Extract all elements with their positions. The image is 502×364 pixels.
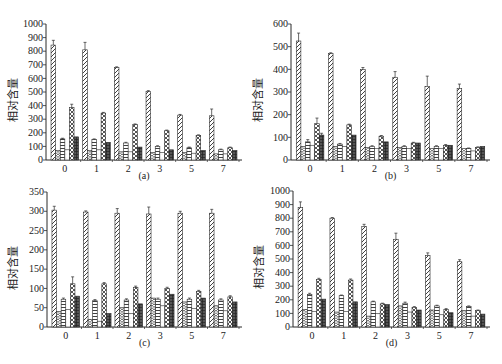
- bar-chevron: [462, 311, 467, 327]
- bar-horizontal-stripe: [371, 302, 376, 327]
- bar-group: [296, 33, 324, 160]
- bar-crosshatch: [228, 297, 233, 327]
- bar-crosshatch: [443, 145, 448, 160]
- bar-horizontal-stripe: [61, 299, 66, 327]
- x-tick-label: 0: [308, 163, 313, 174]
- bar-dark-grid: [138, 304, 143, 327]
- bar-crosshatch: [380, 304, 385, 327]
- bar-blank-dotted: [374, 149, 379, 160]
- bar-diagonal-hatch: [457, 262, 462, 327]
- bar-blank-dotted: [342, 146, 347, 160]
- bar-crosshatch: [411, 143, 416, 160]
- bar-dark-grid: [106, 314, 111, 328]
- x-tick-label: 5: [189, 330, 194, 341]
- bar-crosshatch: [412, 307, 417, 327]
- bar-chevron: [57, 312, 62, 327]
- bar-crosshatch: [476, 311, 481, 327]
- bar-group: [393, 72, 421, 160]
- bar-crosshatch: [133, 125, 138, 160]
- bar-dark-grid: [448, 145, 453, 160]
- bar-dark-grid: [232, 302, 237, 327]
- y-tick-label: 100: [29, 283, 44, 294]
- bar-blank-dotted: [344, 311, 349, 327]
- bar-crosshatch: [164, 131, 169, 160]
- bar-horizontal-stripe: [219, 300, 224, 327]
- bar-horizontal-stripe: [434, 146, 439, 160]
- panel-caption: (d): [386, 337, 398, 349]
- y-tick-label: 100: [275, 308, 290, 319]
- y-tick-label: 350: [29, 186, 44, 197]
- y-tick-label: 500: [273, 41, 288, 52]
- bar-diagonal-hatch: [298, 207, 303, 327]
- bar-diagonal-hatch: [83, 212, 88, 327]
- bar-diagonal-hatch: [328, 53, 333, 160]
- bar-blank-dotted: [192, 308, 197, 327]
- four-panel-bar-chart: 01002003004005006007008009001000相对含量0123…: [0, 0, 502, 364]
- y-tick-label: 800: [275, 212, 290, 223]
- bar-horizontal-stripe: [338, 144, 343, 160]
- y-tick-label: 0: [285, 321, 290, 332]
- bar-crosshatch: [165, 288, 170, 327]
- y-tick-label: 1000: [23, 18, 43, 29]
- bar-blank-dotted: [160, 306, 165, 327]
- x-tick-label: 7: [468, 163, 473, 174]
- y-tick-label: 400: [275, 267, 290, 278]
- bar-crosshatch: [348, 280, 353, 327]
- bar-horizontal-stripe: [339, 296, 344, 327]
- bar-chevron: [398, 306, 403, 327]
- y-tick-label: 200: [28, 127, 43, 138]
- bar-dark-grid: [319, 135, 324, 160]
- bar-diagonal-hatch: [361, 69, 366, 160]
- bar-group: [298, 202, 326, 327]
- bar-crosshatch: [379, 136, 384, 160]
- bar-dark-grid: [232, 150, 237, 160]
- bar-diagonal-hatch: [457, 89, 462, 160]
- bar-blank-dotted: [128, 152, 133, 160]
- bar-dark-grid: [137, 147, 142, 160]
- x-tick-label: 5: [436, 163, 441, 174]
- y-tick-label: 400: [273, 64, 288, 75]
- y-tick-label: 1000: [270, 185, 290, 196]
- x-tick-label: 3: [404, 163, 409, 174]
- bar-horizontal-stripe: [187, 148, 192, 160]
- x-tick-label: 1: [341, 330, 346, 341]
- bar-horizontal-stripe: [307, 294, 312, 327]
- bar-diagonal-hatch: [146, 91, 151, 160]
- bar-group: [425, 253, 453, 327]
- bar-blank-dotted: [192, 153, 197, 160]
- x-tick-label: 0: [62, 163, 67, 174]
- y-tick-label: 300: [275, 280, 290, 291]
- bar-dark-grid: [106, 142, 111, 160]
- bar-blank-dotted: [439, 149, 444, 160]
- bar-blank-dotted: [407, 312, 412, 327]
- y-tick-label: 200: [273, 109, 288, 120]
- bar-dark-grid: [169, 294, 174, 327]
- panel-caption: (a): [138, 170, 149, 182]
- bar-blank-dotted: [471, 151, 476, 160]
- bar-chevron: [214, 306, 219, 327]
- bar-crosshatch: [228, 148, 233, 160]
- bar-chevron: [151, 298, 156, 327]
- chart-panel-b: 0100200300400500600相对含量012357(b): [251, 18, 490, 182]
- bar-diagonal-hatch: [209, 116, 214, 160]
- bar-crosshatch: [476, 148, 481, 160]
- bar-blank-dotted: [223, 154, 228, 160]
- bar-horizontal-stripe: [370, 146, 375, 160]
- y-tick-label: 900: [275, 199, 290, 210]
- bar-horizontal-stripe: [124, 300, 129, 327]
- y-tick-label: 800: [28, 45, 43, 56]
- bar-chevron: [214, 154, 219, 160]
- bar-horizontal-stripe: [60, 139, 65, 160]
- bar-horizontal-stripe: [466, 149, 471, 160]
- chart-panel-d: 01002003004005006007008009001000相对含量0123…: [252, 185, 490, 349]
- bar-chevron: [366, 316, 371, 327]
- bar-horizontal-stripe: [155, 146, 160, 160]
- bar-group: [394, 233, 422, 327]
- y-tick-label: 200: [29, 244, 44, 255]
- bar-dark-grid: [480, 146, 485, 160]
- bar-blank-dotted: [376, 313, 381, 327]
- bar-horizontal-stripe: [219, 150, 224, 160]
- bar-diagonal-hatch: [362, 226, 367, 327]
- bar-chevron: [120, 308, 125, 327]
- y-tick-label: 150: [29, 263, 44, 274]
